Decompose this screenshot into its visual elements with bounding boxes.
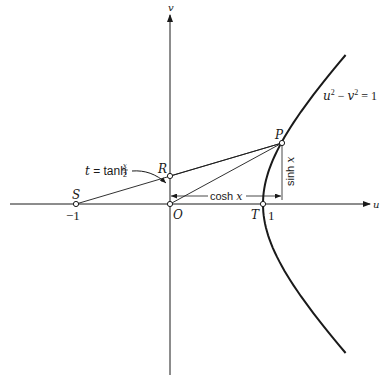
sinh-x-label: sinh x (284, 156, 297, 186)
t-tanh-label: t = tanh (85, 164, 127, 178)
hyperbola-diagram: v u S O R P T −1 1 u2 − v2 = 1 t = tanh … (0, 0, 383, 378)
u-axis-label: u (373, 199, 379, 210)
label-R: R (157, 162, 167, 176)
t-frac-numerator: x (123, 162, 127, 170)
point-S (73, 201, 78, 206)
line-R-to-P (170, 143, 282, 176)
cosh-x-label: cosh x (210, 190, 243, 203)
point-T (260, 201, 265, 206)
label-S: S (72, 188, 80, 202)
tick-one: 1 (268, 208, 275, 223)
hyperbola-equation: u2 − v2 = 1 (323, 88, 377, 103)
label-P: P (274, 128, 284, 142)
tick-minus-one: −1 (66, 208, 80, 223)
label-T: T (251, 208, 260, 222)
label-O: O (173, 208, 183, 222)
v-axis-label: v (168, 2, 174, 13)
point-O (167, 201, 172, 206)
point-R (167, 173, 172, 178)
t-frac-denominator: 2 (123, 171, 127, 178)
